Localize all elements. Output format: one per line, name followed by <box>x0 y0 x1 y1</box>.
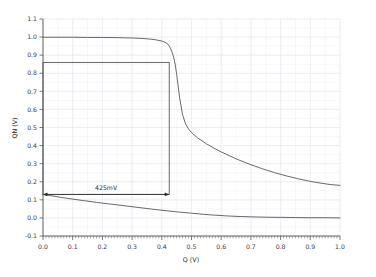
y-tick-label: 0.9 <box>27 51 37 58</box>
y-tick-label: 1.0 <box>27 33 37 40</box>
y-tick-label: 0.8 <box>27 69 37 76</box>
y-tick-label: 0.3 <box>27 160 37 167</box>
y-tick-label: 0.4 <box>27 142 37 149</box>
x-tick-label: 0.0 <box>38 243 48 250</box>
y-tick-label: 0.1 <box>27 196 37 203</box>
x-axis-title: Q (V) <box>183 256 199 264</box>
x-tick-label: 0.4 <box>157 243 167 250</box>
x-tick-label: 0.3 <box>127 243 137 250</box>
y-tick-label: 0.2 <box>27 178 37 185</box>
x-tick-label: 0.7 <box>246 243 256 250</box>
chart-figure: -0.10.00.10.20.30.40.50.60.70.80.91.01.1… <box>0 0 376 277</box>
x-tick-label: 1.0 <box>335 243 345 250</box>
x-tick-label: 0.9 <box>305 243 315 250</box>
x-tick-label: 0.6 <box>216 243 226 250</box>
x-tick-label: 0.8 <box>276 243 286 250</box>
y-tick-label: 0.7 <box>27 88 37 95</box>
x-tick-label: 0.2 <box>97 243 107 250</box>
x-tick-label: 0.1 <box>68 243 78 250</box>
y-tick-label: 0.5 <box>27 124 37 131</box>
y-tick-label: -0.1 <box>25 232 37 239</box>
x-tick-label: 0.5 <box>187 243 197 250</box>
butterfly-curve-plot: -0.10.00.10.20.30.40.50.60.70.80.91.01.1… <box>0 0 376 277</box>
y-axis-title: QN (V) <box>11 117 19 138</box>
y-tick-label: 0.6 <box>27 106 37 113</box>
y-tick-label: 1.1 <box>27 15 37 22</box>
y-tick-label: 0.0 <box>27 214 37 221</box>
snm-arrow-label: 425mV <box>95 184 118 191</box>
